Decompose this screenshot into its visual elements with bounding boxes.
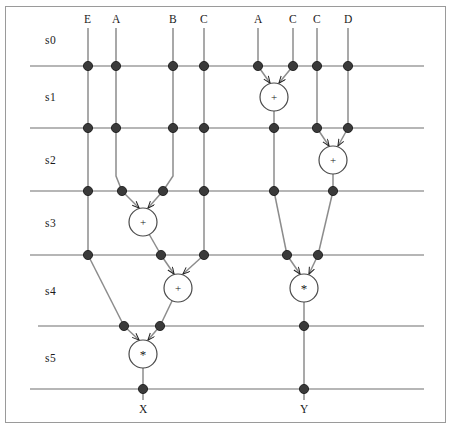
output-label-X: X (139, 403, 147, 415)
register-node[interactable] (299, 384, 308, 393)
register-node[interactable] (111, 123, 120, 132)
register-node[interactable] (282, 250, 291, 259)
input-label-C1: C (200, 13, 208, 25)
operator-symbol: * (140, 347, 147, 362)
register-node[interactable] (253, 61, 262, 70)
register-node[interactable] (138, 384, 147, 393)
register-node[interactable] (117, 186, 126, 195)
output-label-Y: Y (300, 403, 308, 415)
edge-op2-carry-s3 (318, 191, 333, 255)
input-label-C3: C (313, 13, 321, 25)
edge-op1-carry-s3 (274, 191, 287, 255)
register-node[interactable] (156, 250, 165, 259)
signal-edges (88, 28, 348, 400)
register-node[interactable] (328, 186, 337, 195)
state-label-s4: s4 (45, 285, 56, 297)
input-label-B: B (169, 13, 177, 25)
diagram-canvas: + + + + * * (0, 0, 453, 430)
register-node[interactable] (343, 61, 352, 70)
register-node[interactable] (168, 123, 177, 132)
operator-adder-s3[interactable]: + (129, 208, 157, 236)
state-label-s0: s0 (45, 34, 56, 46)
register-node[interactable] (269, 123, 278, 132)
register-nodes (83, 61, 352, 393)
register-node[interactable] (312, 61, 321, 70)
register-node[interactable] (83, 61, 92, 70)
operator-multiplier-s5[interactable]: * (129, 340, 157, 368)
operator-adder-s2[interactable]: + (319, 146, 347, 174)
register-node[interactable] (83, 250, 92, 259)
register-node[interactable] (111, 61, 120, 70)
register-node[interactable] (313, 250, 322, 259)
register-node[interactable] (288, 61, 297, 70)
operator-input-arrows (122, 66, 348, 340)
edge-E-to-mult-s5 (88, 255, 124, 326)
register-node[interactable] (119, 321, 128, 330)
input-label-D: D (344, 13, 352, 25)
edge-A1-trunk (116, 28, 122, 191)
operator-adder-s1[interactable]: + (260, 83, 288, 111)
register-node[interactable] (343, 123, 352, 132)
input-label-A2: A (254, 13, 262, 25)
register-node[interactable] (312, 123, 321, 132)
state-boundary-lines (30, 66, 424, 389)
input-label-C2: C (289, 13, 297, 25)
operator-symbol: + (140, 216, 146, 228)
register-node[interactable] (155, 321, 164, 330)
edge-B-trunk (163, 28, 173, 191)
input-label-E: E (84, 13, 91, 25)
operator-multiplier-s4[interactable]: * (290, 274, 318, 302)
register-node[interactable] (83, 186, 92, 195)
state-label-s5: s5 (45, 352, 56, 364)
register-node[interactable] (299, 321, 308, 330)
register-node[interactable] (199, 250, 208, 259)
register-node[interactable] (199, 186, 208, 195)
register-node[interactable] (83, 123, 92, 132)
operator-symbol: + (271, 91, 277, 103)
operator-symbol: + (330, 154, 336, 166)
operator-adder-s4[interactable]: + (164, 274, 192, 302)
register-node[interactable] (168, 61, 177, 70)
register-node[interactable] (199, 123, 208, 132)
operator-symbol: * (301, 281, 308, 296)
input-label-A1: A (112, 13, 120, 25)
register-node[interactable] (158, 186, 167, 195)
state-label-s3: s3 (45, 217, 56, 229)
dataflow-graph: + + + + * * (0, 0, 453, 430)
operator-symbol: + (175, 282, 181, 294)
register-node[interactable] (199, 61, 208, 70)
register-node[interactable] (269, 186, 278, 195)
state-label-s1: s1 (45, 91, 56, 103)
state-label-s2: s2 (45, 154, 56, 166)
